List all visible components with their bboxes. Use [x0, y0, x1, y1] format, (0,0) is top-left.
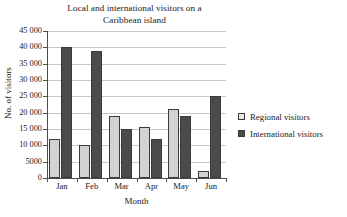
y-axis-tick-label: 25 000: [2, 92, 42, 100]
bar-feb-international: [91, 51, 102, 178]
bar-jan-regional: [49, 139, 60, 178]
legend-item-label: International visitors: [250, 129, 323, 139]
y-axis-tick-mark: [43, 113, 48, 114]
x-axis-tick-label-apr: Apr: [136, 181, 166, 191]
x-axis-title: Month: [47, 196, 226, 206]
y-axis-tick-label: 0: [2, 174, 42, 182]
legend-item-international[interactable]: International visitors: [238, 125, 346, 142]
bar-group: [77, 31, 107, 178]
chart-legend: Regional visitorsInternational visitors: [238, 108, 346, 142]
y-axis-tick-mark: [43, 96, 48, 97]
bar-apr-international: [151, 139, 162, 178]
bar-group: [166, 31, 196, 178]
bar-may-international: [180, 116, 191, 178]
bar-feb-regional: [79, 145, 90, 178]
y-axis-tick-label: 5000: [2, 158, 42, 166]
bar-may-regional: [168, 109, 179, 178]
legend-swatch-icon: [238, 130, 245, 137]
y-axis-tick-label: 35 000: [2, 60, 42, 68]
bar-chart: Local and international visitors on a Ca…: [0, 0, 347, 217]
y-axis-tick-label: 40 000: [2, 43, 42, 51]
x-axis-tick-label-feb: Feb: [77, 181, 107, 191]
y-axis-tick-label: 15 000: [2, 125, 42, 133]
y-axis-tick-mark: [43, 47, 48, 48]
x-axis-tick-label-jan: Jan: [47, 181, 77, 191]
legend-item-regional[interactable]: Regional visitors: [238, 108, 346, 125]
bar-group: [107, 31, 137, 178]
legend-item-label: Regional visitors: [250, 112, 310, 122]
x-axis-tick-mark: [226, 178, 227, 182]
bar-jun-regional: [198, 171, 209, 178]
bar-jan-international: [61, 47, 72, 178]
y-axis-tick-mark: [43, 80, 48, 81]
chart-title-line-2: Caribbean island: [42, 14, 227, 26]
plot-area: [47, 31, 226, 178]
y-axis-tick-label: 45 000: [2, 27, 42, 35]
y-axis-tick-label: 10 000: [2, 141, 42, 149]
x-axis-tick-label-mar: Mar: [107, 181, 137, 191]
y-axis-tick-mark: [43, 31, 48, 32]
bar-jun-international: [210, 96, 221, 178]
bar-group: [196, 31, 226, 178]
bar-apr-regional: [139, 127, 150, 178]
bar-mar-regional: [109, 116, 120, 178]
y-axis-tick-mark: [43, 64, 48, 65]
x-axis-tick-label-may: May: [166, 181, 196, 191]
y-axis-tick-label: 20 000: [2, 109, 42, 117]
chart-title: Local and international visitors on a Ca…: [42, 2, 227, 26]
bar-group: [47, 31, 77, 178]
bar-group: [137, 31, 167, 178]
bar-mar-international: [121, 129, 132, 178]
y-axis-tick-mark: [43, 145, 48, 146]
y-axis-tick-labels: 0500010 00015 00020 00025 00030 00035 00…: [0, 0, 42, 217]
y-axis-tick-mark: [43, 129, 48, 130]
chart-title-line-1: Local and international visitors on a: [42, 2, 227, 14]
y-axis-tick-mark: [43, 162, 48, 163]
y-axis-tick-label: 30 000: [2, 76, 42, 84]
legend-swatch-icon: [238, 113, 245, 120]
x-axis-tick-label-jun: Jun: [196, 181, 226, 191]
